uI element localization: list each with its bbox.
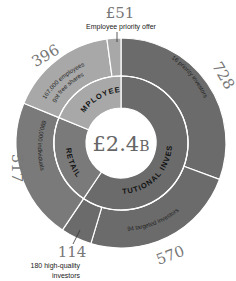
- value-728: 728: [208, 59, 236, 93]
- note-114-line2: investors: [52, 272, 81, 279]
- sunburst-chart: £2.4B INSTITUTIONAL INVESTORS RETAIL EMP…: [0, 0, 236, 281]
- value-114: 114: [58, 243, 87, 261]
- value-570: 570: [154, 242, 187, 269]
- value-517: 517: [8, 154, 26, 183]
- note-51: Employee priority offer: [86, 23, 157, 31]
- value-51: £51: [106, 4, 135, 22]
- note-114-line1: 180 high-quality: [31, 262, 81, 270]
